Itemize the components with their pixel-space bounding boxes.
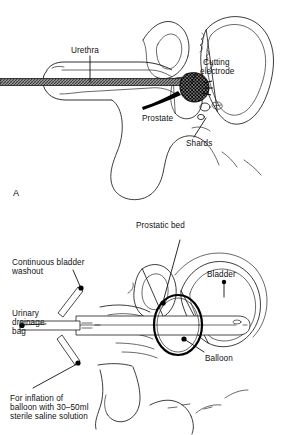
label-washout-line2: washout (11, 267, 44, 276)
cutting-electrode (180, 73, 213, 102)
leader-continuous-bladder-washout (73, 270, 80, 286)
label-cutting-electrode-line2: electrode (200, 67, 235, 76)
panel-b-illustration: Prostatic bed Bladder Balloon Continuous… (0, 215, 282, 435)
label-washout-line1: Continuous bladder (12, 258, 85, 267)
label-inflation-line2: balloon with 30–50ml (10, 403, 89, 412)
leader-inflation-note (33, 364, 77, 388)
three-way-catheter (76, 316, 250, 335)
label-bladder: Bladder (207, 270, 236, 279)
label-cutting-electrode-line1: Cutting (203, 58, 230, 67)
label-urethra: Urethra (71, 46, 99, 55)
panel-letter-a: A (13, 188, 20, 198)
leader-bladder (222, 280, 226, 297)
label-drainage-line3: bag (12, 327, 26, 336)
panel-b: Prostatic bed Bladder Balloon Continuous… (0, 215, 282, 435)
label-inflation-line3: sterile saline solution (10, 412, 88, 421)
leader-prostate (142, 91, 181, 110)
panel-a: Urethra Cutting electrode Prostate Shard… (0, 0, 282, 215)
label-drainage-line1: Urinary (12, 309, 40, 318)
label-balloon: Balloon (205, 354, 233, 363)
label-drainage-line2: drainage (12, 318, 45, 327)
panel-a-illustration: Urethra Cutting electrode Prostate Shard… (0, 0, 282, 215)
label-prostatic-bed: Prostatic bed (136, 221, 185, 230)
label-prostate: Prostate (142, 114, 174, 123)
label-inflation-line1: For inflation of (10, 394, 64, 403)
label-shards: Shards (186, 139, 212, 148)
periurethral-folds (98, 305, 157, 366)
figure-root: Urethra Cutting electrode Prostate Shard… (0, 0, 282, 435)
pubic-symphysis-outline (128, 265, 176, 320)
pelvic-floor-outline (95, 367, 248, 434)
resectoscope-shaft (0, 79, 190, 86)
